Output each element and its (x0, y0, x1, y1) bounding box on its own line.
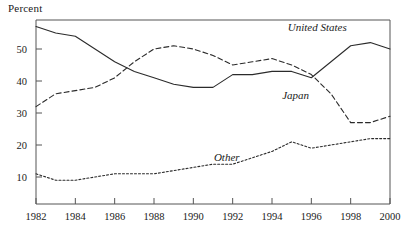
y-tick-label-10: 10 (17, 172, 28, 183)
x-tick-label-1990: 1990 (183, 211, 204, 222)
y-axis-tick-labels: 1020304050 (17, 44, 28, 183)
x-tick-label-1984: 1984 (65, 211, 87, 222)
y-tick-label-40: 40 (17, 76, 28, 87)
x-tick-label-1988: 1988 (144, 211, 165, 222)
x-axis-tick-labels: 1982198419861988199019921994199619982000 (26, 211, 401, 222)
y-tick-label-50: 50 (17, 44, 28, 55)
chart-container: Percent 1020304050 198219841986198819901… (0, 0, 406, 241)
x-tick-label-1992: 1992 (222, 211, 243, 222)
y-tick-label-30: 30 (17, 108, 28, 119)
series-annotations: United StatesJapanOther (214, 21, 347, 163)
series-line-united-states (36, 27, 390, 88)
x-tick-label-1986: 1986 (104, 211, 125, 222)
plot-frame (36, 20, 390, 204)
x-tick-label-1994: 1994 (262, 211, 284, 222)
x-tick-label-1998: 1998 (340, 211, 361, 222)
plot-border (36, 20, 390, 204)
series-label-united-states: United States (288, 21, 347, 33)
axis-ticks (36, 49, 390, 204)
x-tick-label-1996: 1996 (301, 211, 322, 222)
x-tick-label-1982: 1982 (26, 211, 47, 222)
line-chart-plot: 1020304050 19821984198619881990199219941… (0, 0, 406, 241)
series-label-other: Other (214, 151, 240, 163)
x-tick-label-2000: 2000 (380, 211, 401, 222)
y-tick-label-20: 20 (17, 140, 28, 151)
series-label-japan: Japan (282, 89, 309, 101)
